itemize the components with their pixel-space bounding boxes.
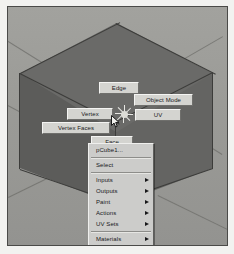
cube-edge xyxy=(212,73,213,169)
context-menu-item-paint[interactable]: Paint xyxy=(89,197,153,208)
context-menu-item-select[interactable]: Select xyxy=(89,160,153,171)
context-menu-item-baking[interactable]: Baking xyxy=(89,245,153,246)
context-menu-item-label: Inputs xyxy=(96,177,113,183)
context-menu-item-inputs[interactable]: Inputs xyxy=(89,175,153,186)
marking-menu-vertex-faces[interactable]: Vertex Faces xyxy=(42,122,110,134)
context-menu-item-actions[interactable]: Actions xyxy=(89,208,153,219)
context-menu-item-outputs[interactable]: Outputs xyxy=(89,186,153,197)
context-menu-separator xyxy=(91,172,151,174)
mouse-cursor-icon xyxy=(111,115,120,128)
marking-menu-edge[interactable]: Edge xyxy=(99,82,139,94)
submenu-arrow-icon xyxy=(145,222,149,226)
context-menu-item-pcube1[interactable]: pCube1... xyxy=(89,145,153,156)
maya-3d-viewport[interactable]: Edge Object Mode UV Vertex Vertex Faces … xyxy=(7,6,228,246)
context-menu-item-materials[interactable]: Materials xyxy=(89,234,153,245)
cube-edge xyxy=(19,73,20,169)
marking-menu-object-mode[interactable]: Object Mode xyxy=(134,94,193,106)
context-menu-item-label: Materials xyxy=(96,236,121,242)
screenshot-root: Edge Object Mode UV Vertex Vertex Faces … xyxy=(0,0,234,254)
context-menu-separator xyxy=(91,231,151,233)
submenu-arrow-icon xyxy=(145,211,149,215)
submenu-arrow-icon xyxy=(145,237,149,241)
context-menu-item-label: Outputs xyxy=(96,188,118,194)
context-menu-item-uv-sets[interactable]: UV Sets xyxy=(89,219,153,230)
context-menu-item-label: Paint xyxy=(96,199,110,205)
context-menu-separator xyxy=(91,157,151,159)
submenu-arrow-icon xyxy=(145,200,149,204)
submenu-arrow-icon xyxy=(145,178,149,182)
context-menu-item-label: UV Sets xyxy=(96,221,119,227)
marking-menu-vertex[interactable]: Vertex xyxy=(67,108,113,120)
object-context-menu[interactable]: pCube1... Select Inputs Outputs Paint Ac… xyxy=(88,143,154,246)
context-menu-item-label: Actions xyxy=(96,210,116,216)
marking-menu-uv[interactable]: UV xyxy=(135,109,181,121)
submenu-arrow-icon xyxy=(145,189,149,193)
